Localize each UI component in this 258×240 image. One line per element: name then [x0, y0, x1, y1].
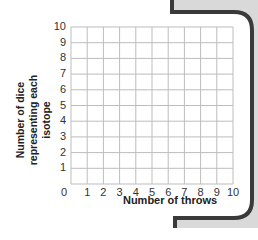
- y-tick-label: 5: [46, 100, 66, 111]
- y-tick-label: 8: [46, 52, 66, 63]
- y-tick-label: 2: [46, 147, 66, 158]
- y-tick-label: 1: [46, 162, 66, 173]
- y-tick-label: 6: [46, 84, 66, 95]
- x-tick-label: 0: [56, 187, 72, 198]
- x-tick-label: 1: [79, 187, 95, 198]
- x-axis-label: Number of throws: [100, 194, 240, 206]
- y-tick-label: 3: [46, 131, 66, 142]
- y-tick-label: 10: [46, 21, 66, 32]
- y-tick-label: 9: [46, 37, 66, 48]
- y-tick-label: 7: [46, 68, 66, 79]
- y-axis-label-line-1: Number of dice: [14, 61, 27, 179]
- y-tick-label: 4: [46, 115, 66, 126]
- y-axis-label: Number of dice representing each isotope: [14, 61, 44, 179]
